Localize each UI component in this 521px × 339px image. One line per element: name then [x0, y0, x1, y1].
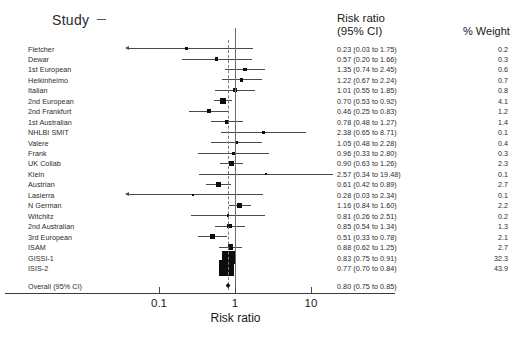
pooled-estimate-line [228, 40, 229, 290]
weight-value: 32.3 [468, 254, 508, 263]
overall-label: Overall (95% CI) [28, 282, 82, 291]
study-label: Frank [28, 149, 47, 158]
study-label: Austrian [28, 180, 55, 189]
study-label: Witchitz [28, 212, 54, 221]
study-label: Lasierra [28, 191, 54, 200]
x-axis-tick [311, 287, 312, 293]
study-estimate-marker [243, 68, 247, 72]
study-label: 3rd European [28, 233, 72, 242]
confidence-interval-line [129, 194, 263, 195]
x-axis-line [5, 293, 395, 294]
risk-ratio-value: 0.88 (0.62 to 1.25) [337, 243, 397, 252]
weight-value: 0.4 [468, 139, 508, 148]
study-estimate-marker [219, 260, 235, 276]
study-estimate-marker [265, 173, 268, 176]
risk-ratio-value: 0.83 (0.75 to 0.91) [337, 254, 397, 263]
risk-ratio-value: 0.96 (0.33 to 2.80) [337, 149, 397, 158]
study-label: Italian [28, 86, 48, 95]
study-estimate-marker [185, 47, 188, 50]
risk-ratio-value: 0.57 (0.20 to 1.66) [337, 55, 397, 64]
study-label: 2nd Frankfurt [28, 107, 71, 116]
null-effect-line [235, 28, 236, 293]
risk-ratio-value: 1.35 (0.74 to 2.45) [337, 65, 397, 74]
risk-ratio-value: 0.28 (0.03 to 2.34) [337, 191, 397, 200]
weight-value: 0.3 [468, 149, 508, 158]
study-label: NHLBI SMIT [28, 128, 69, 137]
study-label: Valere [28, 139, 49, 148]
risk-ratio-value: 0.81 (0.26 to 2.51) [337, 212, 397, 221]
risk-ratio-value: 0.77 (0.70 to 0.84) [337, 264, 397, 273]
column-header-risk-ratio-ci: (95% CI) [337, 25, 382, 37]
weight-value: 2.1 [468, 233, 508, 242]
weight-value: 0.2 [468, 212, 508, 221]
column-header-risk-ratio: Risk ratio [337, 12, 385, 24]
study-label: 1st Australian [28, 118, 72, 127]
weight-value: 1.3 [468, 222, 508, 231]
overall-diamond-marker [226, 283, 231, 288]
x-axis-tick-label: 0.1 [134, 297, 184, 309]
forest-plot: Study Risk ratio (95% CI) % Weight Fletc… [0, 0, 521, 339]
study-label: UK Collab [28, 159, 61, 168]
risk-ratio-value: 2.38 (0.65 to 8.71) [337, 128, 397, 137]
risk-ratio-value: 0.61 (0.42 to 0.89) [337, 180, 397, 189]
overall-risk-ratio-value: 0.80 (0.75 to 0.85) [337, 282, 397, 291]
ci-left-arrow-icon [125, 46, 129, 50]
study-estimate-marker [228, 244, 233, 249]
study-estimate-marker [215, 57, 218, 60]
study-estimate-marker [210, 234, 215, 239]
risk-ratio-value: 1.05 (0.48 to 2.28) [337, 139, 397, 148]
risk-ratio-value: 1.22 (0.67 to 2.24) [337, 76, 397, 85]
x-axis-tick-label: 1 [210, 297, 260, 309]
study-label: N German [28, 201, 62, 210]
ci-left-arrow-icon [125, 192, 129, 196]
study-label: GISSI-1 [28, 254, 54, 263]
x-axis-tick-label: 10 [286, 297, 336, 309]
study-label: 2nd European [28, 97, 74, 106]
study-label: Klein [28, 170, 44, 179]
weight-value: 2.7 [468, 180, 508, 189]
weight-value: 0.6 [468, 65, 508, 74]
risk-ratio-value: 0.70 (0.53 to 0.92) [337, 97, 397, 106]
risk-ratio-value: 0.90 (0.63 to 1.26) [337, 159, 397, 168]
risk-ratio-value: 0.51 (0.33 to 0.78) [337, 233, 397, 242]
study-label: Dewar [28, 55, 49, 64]
study-estimate-marker [220, 98, 226, 104]
study-estimate-marker [216, 182, 221, 187]
weight-value: 43.9 [468, 264, 508, 273]
risk-ratio-value: 0.46 (0.25 to 0.83) [337, 107, 397, 116]
study-label: Heikinheimo [28, 76, 68, 85]
weight-value: 0.1 [468, 170, 508, 179]
study-label: ISAM [28, 243, 46, 252]
risk-ratio-value: 0.85 (0.54 to 1.34) [337, 222, 397, 231]
column-header-study: Study [52, 12, 89, 28]
risk-ratio-value: 1.01 (0.55 to 1.85) [337, 86, 397, 95]
study-label: Fletcher [28, 45, 54, 54]
study-estimate-marker [240, 78, 244, 82]
weight-value: 2.2 [468, 201, 508, 210]
weight-value: 0.2 [468, 45, 508, 54]
weight-value: 0.7 [468, 76, 508, 85]
weight-value: 4.1 [468, 97, 508, 106]
weight-value: 0.1 [468, 191, 508, 200]
study-estimate-marker [207, 109, 211, 113]
risk-ratio-value: 2.57 (0.34 to 19.48) [337, 170, 401, 179]
weight-value: 2.3 [468, 159, 508, 168]
risk-ratio-value: 0.78 (0.48 to 1.27) [337, 118, 397, 127]
study-estimate-marker [192, 194, 195, 197]
study-estimate-marker [237, 203, 242, 208]
x-axis-tick [159, 287, 160, 293]
study-estimate-marker [229, 161, 234, 166]
risk-ratio-value: 1.16 (0.84 to 1.60) [337, 201, 397, 210]
study-label: 2nd Australian [28, 222, 74, 231]
risk-ratio-value: 0.23 (0.03 to 1.75) [337, 45, 397, 54]
x-axis-title: Risk ratio [183, 311, 288, 325]
study-label: ISIS-2 [28, 264, 48, 273]
x-axis-tick [235, 287, 236, 293]
study-estimate-marker [262, 131, 265, 134]
column-header-weight: % Weight [463, 25, 510, 37]
weight-value: 0.1 [468, 128, 508, 137]
study-header-rule [97, 19, 106, 20]
study-label: 1st European [28, 65, 71, 74]
weight-value: 0.8 [468, 86, 508, 95]
weight-value: 1.4 [468, 118, 508, 127]
